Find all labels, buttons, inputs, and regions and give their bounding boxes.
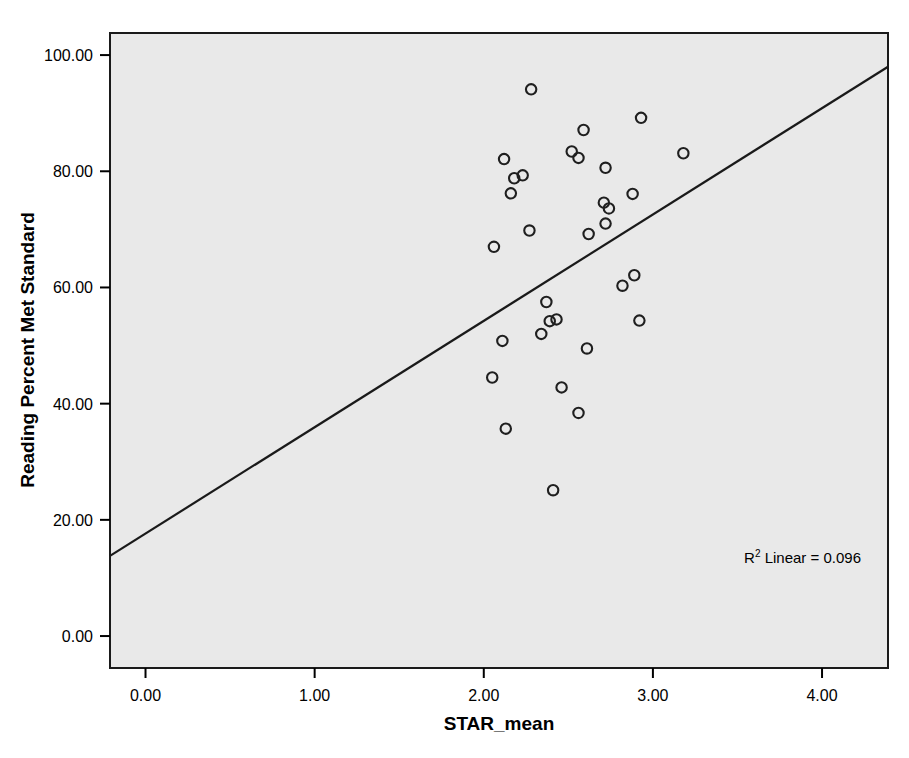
x-tick-label: 1.00 xyxy=(299,687,330,704)
y-tick-label: 100.00 xyxy=(44,47,93,64)
r-squared-annotation: R2 Linear = 0.096 xyxy=(744,548,861,566)
scatter-plot-figure: 0.001.002.003.004.00 0.0020.0040.0060.00… xyxy=(0,0,909,758)
x-tick-label: 2.00 xyxy=(468,687,499,704)
r-squared-text: Linear = 0.096 xyxy=(761,549,862,566)
y-axis-title: Reading Percent Met Standard xyxy=(17,212,38,488)
y-tick-label: 80.00 xyxy=(53,163,93,180)
x-tick-label: 4.00 xyxy=(806,687,837,704)
y-tick-label: 60.00 xyxy=(53,279,93,296)
x-axis-title: STAR_mean xyxy=(444,713,555,734)
y-tick-label: 40.00 xyxy=(53,396,93,413)
x-tick-label: 3.00 xyxy=(637,687,668,704)
y-tick-label: 20.00 xyxy=(53,512,93,529)
r-squared-base: R xyxy=(744,549,755,566)
x-tick-label: 0.00 xyxy=(130,687,161,704)
plot-canvas: 0.001.002.003.004.00 0.0020.0040.0060.00… xyxy=(0,0,909,758)
plot-area-frame xyxy=(110,33,888,668)
y-tick-label: 0.00 xyxy=(62,628,93,645)
